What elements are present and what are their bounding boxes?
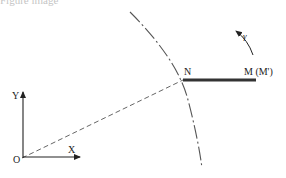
point-m-label: M (M')	[244, 66, 273, 78]
x-axis-label: X	[68, 144, 76, 155]
boundary-arc	[130, 12, 202, 168]
point-n-label: N	[184, 66, 191, 77]
origin-label: O	[13, 154, 20, 165]
gamma-label: γ	[243, 31, 247, 41]
y-axis-label: Y	[12, 90, 19, 101]
diagram-canvas: Y X O N M (M') γ	[0, 0, 286, 178]
dashed-line-o-to-n	[22, 80, 183, 158]
